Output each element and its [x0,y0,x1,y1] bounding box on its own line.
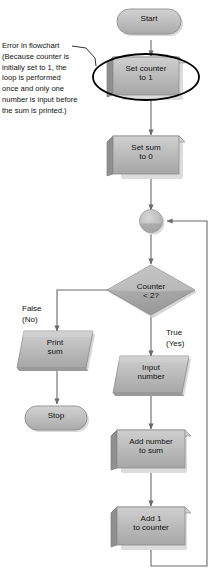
flowchart-canvas: Error in flowchart (Because counter is i… [0,0,219,574]
node-input-number [113,356,191,396]
node-decision [107,265,197,318]
node-connector [140,210,165,235]
error-annotation-text: Error in flowchart (Because counter is i… [2,41,98,116]
node-stop [25,406,89,432]
node-add-number [111,430,191,470]
node-set-sum [107,136,185,176]
node-add-one [111,507,191,547]
node-start [117,9,183,36]
edge-decision-false-to-printsum [57,290,112,331]
branch-label-false: False (No) [22,304,42,326]
branch-label-true: True (Yes) [166,328,184,350]
node-set-counter [107,57,185,97]
node-print-sum [17,331,95,371]
